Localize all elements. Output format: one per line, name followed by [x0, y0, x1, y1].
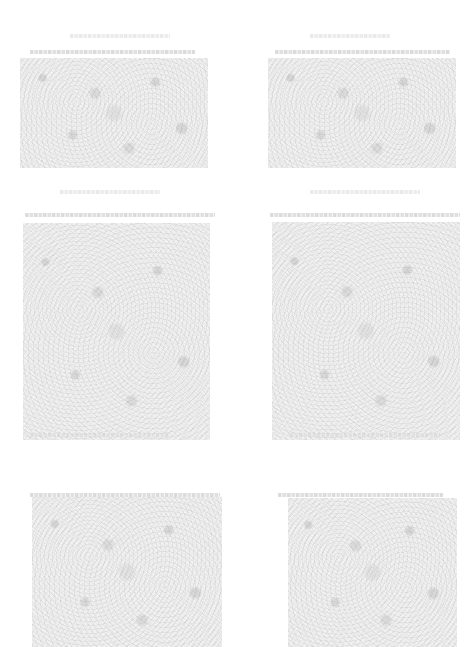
caption-line-mid-right-1: [310, 190, 420, 194]
texture-figure-bottom-left: [32, 497, 222, 647]
caption-line-low-right-1: [290, 433, 440, 437]
caption-line-top-left-2: [30, 50, 195, 54]
caption-line-mid-left-1: [60, 190, 160, 194]
texture-figure-top-left: [20, 58, 208, 168]
texture-figure-middle-left: [23, 223, 210, 440]
caption-line-mid-right-2: [270, 213, 460, 217]
texture-figure-bottom-right: [288, 498, 457, 647]
texture-figure-middle-right: [272, 222, 460, 440]
caption-line-low-right-2: [278, 493, 443, 497]
caption-line-low-left-1: [30, 433, 170, 437]
texture-figure-top-right: [268, 58, 456, 168]
caption-line-mid-left-2: [25, 213, 215, 217]
caption-line-top-right-1: [310, 34, 390, 38]
caption-line-top-left-1: [70, 34, 170, 38]
caption-line-top-right-2: [275, 50, 450, 54]
